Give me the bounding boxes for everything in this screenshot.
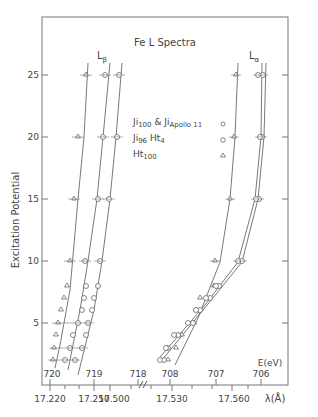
legend-item-ji96-ht4: Ji96 Ht4 — [132, 133, 225, 145]
lalpha-markers — [158, 72, 266, 363]
svg-text:20: 20 — [28, 132, 40, 142]
diamond-marker-icon — [221, 138, 226, 143]
energy-axis-label: E(eV) — [258, 358, 282, 368]
energy-tick-labels: 720 719 718 708 707 706 — [43, 369, 269, 379]
wavelength-ticks — [50, 385, 248, 391]
lbeta-label: Lβ — [97, 50, 107, 64]
legend: Ji100 & JiApollo 11 Ji96 Ht4 Ht100 — [132, 117, 226, 161]
svg-text:Ht100: Ht100 — [133, 149, 157, 161]
y-tick-labels: 5 10 15 20 25 — [28, 70, 40, 328]
lalpha-error-bars — [210, 75, 268, 261]
svg-text:10: 10 — [28, 256, 40, 266]
triangle-marker — [51, 72, 89, 361]
svg-text:17.560: 17.560 — [218, 394, 250, 404]
plot-frame — [42, 17, 288, 385]
lbeta-curves — [55, 63, 122, 375]
svg-text:Ji100 & JiApollo 11: Ji100 & JiApollo 11 — [132, 117, 202, 129]
lbeta-error-bars — [48, 75, 125, 360]
svg-text:708: 708 — [161, 369, 178, 379]
y-axis-label: Excitation Potential — [10, 172, 21, 269]
lalpha-curves — [160, 63, 266, 365]
fe-l-spectra-chart: Fe L Spectra Lβ Lα Excitation Potential … — [0, 0, 318, 417]
svg-text:Ji96 Ht4: Ji96 Ht4 — [132, 133, 165, 145]
circle-marker — [158, 73, 263, 363]
svg-text:15: 15 — [28, 194, 39, 204]
svg-text:719: 719 — [85, 369, 102, 379]
circle-marker — [73, 73, 122, 363]
svg-text:707: 707 — [207, 369, 224, 379]
svg-text:25: 25 — [28, 70, 39, 80]
lalpha-label: Lα — [249, 50, 260, 64]
wavelength-tick-labels: 17.220 17.250 17.500 17.530 17.560 — [34, 394, 250, 404]
energy-ticks — [50, 379, 261, 385]
svg-text:5: 5 — [33, 318, 39, 328]
lbeta-markers — [51, 72, 122, 363]
svg-text:17.530: 17.530 — [156, 394, 188, 404]
circle-marker-icon — [221, 122, 225, 126]
chart-title: Fe L Spectra — [134, 37, 196, 48]
legend-item-ji100-apollo11: Ji100 & JiApollo 11 — [132, 117, 225, 129]
svg-text:706: 706 — [252, 369, 269, 379]
wavelength-axis-label: λ(Å) — [265, 392, 286, 404]
svg-text:17.220: 17.220 — [34, 394, 66, 404]
legend-item-ht100: Ht100 — [133, 149, 226, 161]
triangle-marker-icon — [221, 153, 226, 157]
svg-text:720: 720 — [43, 369, 60, 379]
svg-text:17.500: 17.500 — [98, 394, 130, 404]
svg-text:718: 718 — [129, 369, 146, 379]
